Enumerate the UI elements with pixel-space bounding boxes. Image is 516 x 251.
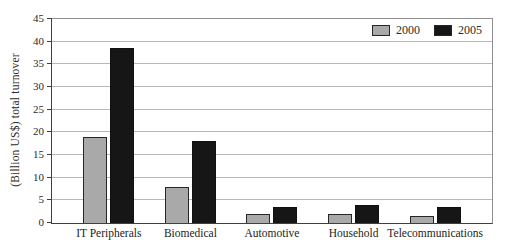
bar-chart-figure: (Billion US$) total turnover 05101520253… [0,0,516,251]
y-tick-label-30: 30 [20,80,44,93]
bar-2005-it-peripherals [110,48,134,223]
bar-group-it-peripherals: IT Peripherals [68,19,150,223]
y-tick-label-15: 15 [20,148,44,161]
plot-area: 051015202530354045 IT PeripheralsBiomedi… [51,18,493,224]
x-category-label-automotive: Automotive [245,227,300,239]
x-category-label-household: Household [329,227,379,239]
y-tick-label-35: 35 [20,57,44,70]
x-category-label-biomedical: Biomedical [164,227,217,239]
bar-2005-telecommunications [437,207,461,223]
bar-2000-telecommunications [410,216,434,223]
y-tick-label-40: 40 [20,35,44,48]
y-tick-label-25: 25 [20,103,44,116]
bar-2000-automotive [246,214,270,223]
bar-2000-household [328,214,352,223]
y-tick-label-45: 45 [20,12,44,25]
bar-2005-household [355,205,379,223]
bar-2005-biomedical [192,141,216,223]
y-axis-title: (Billion US$) total turnover [9,53,21,187]
bar-2005-automotive [273,207,297,223]
x-category-label-it-peripherals: IT Peripherals [76,227,141,239]
bar-group-automotive: Automotive [231,19,313,223]
bar-2000-it-peripherals [83,137,107,223]
legend-label-2005: 2005 [458,23,482,38]
bar-group-telecommunications: Telecommunications [394,19,476,223]
bar-groups: IT PeripheralsBiomedicalAutomotiveHouseh… [52,19,492,223]
y-tick-label-0: 0 [20,216,44,229]
y-tick-label-10: 10 [20,171,44,184]
y-tick-label-5: 5 [20,193,44,206]
legend-label-2000: 2000 [396,23,420,38]
legend-item-2005: 2005 [434,23,482,38]
x-category-label-telecommunications: Telecommunications [387,227,483,239]
bar-group-biomedical: Biomedical [150,19,232,223]
bar-group-household: Household [313,19,395,223]
bar-2000-biomedical [165,187,189,223]
legend-swatch-2005 [434,25,452,36]
y-tick-label-20: 20 [20,125,44,138]
legend-item-2000: 2000 [372,23,420,38]
legend-swatch-2000 [372,25,390,36]
legend: 2000 2005 [372,23,482,38]
